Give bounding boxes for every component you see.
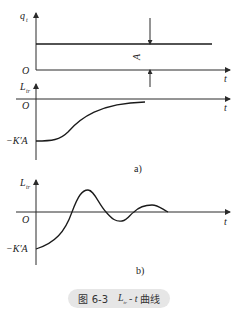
origin-label: O (22, 65, 29, 76)
caption-variable: Ltr (118, 292, 127, 305)
origin-label: O (22, 100, 29, 111)
start-value-label: −K′A (6, 243, 29, 254)
caption-var-sub: tr (124, 300, 127, 305)
y-axis-label-sub: t (26, 17, 28, 23)
panel-b: L tr O t −K′A b) (6, 177, 230, 277)
x-axis-label: t (224, 73, 227, 84)
panel-step-input: q t O t A (20, 10, 230, 87)
caption-prefix: 图 6-3 (78, 291, 108, 306)
caption-suffix: 曲线 (140, 291, 160, 306)
response-curve-a (36, 102, 145, 141)
caption-mid: - t (129, 293, 138, 304)
y-axis-label-sub: tr (26, 184, 31, 190)
x-axis-label: t (224, 102, 227, 113)
y-axis-label-sub: tr (26, 88, 31, 94)
amplitude-label: A (131, 53, 142, 61)
figure-caption: 图 6-3 Ltr - t 曲线 (68, 289, 170, 308)
y-axis-label: L (19, 81, 26, 92)
y-axis-label: L (19, 177, 26, 188)
y-axis-label: q (20, 10, 25, 21)
response-curve-b (36, 190, 168, 249)
origin-label: O (22, 214, 29, 225)
diagram-canvas: q t O t A L tr O t −K′A a) L tr O t −K′A… (0, 0, 235, 313)
panel-tag: b) (136, 265, 144, 277)
panel-tag: a) (134, 163, 142, 175)
start-value-label: −K′A (6, 135, 29, 146)
panel-a: L tr O t −K′A a) (6, 81, 230, 175)
x-axis-label: t (224, 216, 227, 227)
